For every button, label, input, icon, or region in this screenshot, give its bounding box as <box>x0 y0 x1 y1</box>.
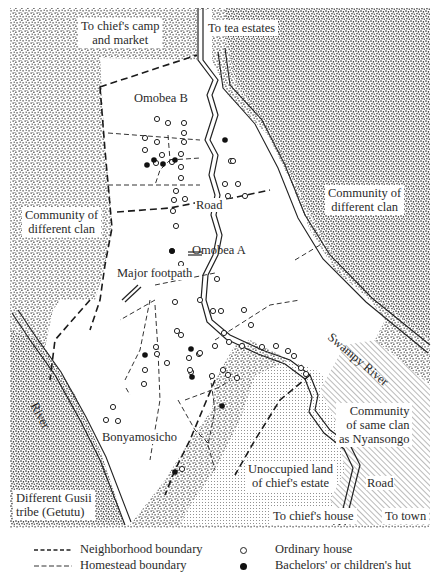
legend-bachelor-label: Bachelors' or children's hut <box>275 558 411 572</box>
label-major-footpath: Major footpath <box>116 266 193 280</box>
ordinary-house-icon <box>226 339 231 344</box>
ordinary-house-icon <box>273 343 278 348</box>
ordinary-house-icon <box>221 330 226 335</box>
ordinary-house-icon <box>178 175 183 180</box>
ordinary-house-icon <box>179 466 184 471</box>
bachelor-hut-icon <box>151 157 157 163</box>
ordinary-house-icon <box>153 344 158 349</box>
label-omobea-b: Omobea B <box>134 91 188 105</box>
ordinary-house-icon <box>171 197 176 202</box>
ordinary-house-icon <box>181 120 186 125</box>
ordinary-house-icon <box>210 308 215 313</box>
ordinary-house-icon <box>172 299 177 304</box>
bachelor-hut-icon <box>222 137 228 143</box>
bachelor-hut-icon <box>219 403 225 409</box>
ordinary-house-icon <box>230 158 235 163</box>
ordinary-house-icon <box>222 181 227 186</box>
legend-homestead: Homestead boundary <box>34 558 187 573</box>
legend-neighborhood-label: Neighborhood boundary <box>80 542 203 556</box>
ordinary-house-icon <box>181 139 186 144</box>
legend: Neighborhood boundary Homestead boundary… <box>0 542 436 581</box>
ordinary-house-icon <box>259 344 264 349</box>
ordinary-house-icon <box>142 367 147 372</box>
ordinary-house-icon <box>154 351 159 356</box>
ordinary-house-icon <box>110 404 115 409</box>
nyansongo-map <box>0 0 436 540</box>
ordinary-house-icon <box>212 343 217 348</box>
ordinary-house-icon <box>178 164 183 169</box>
label-to-chiefs-house: To chief's house <box>270 508 357 524</box>
ordinary-house-icon <box>241 307 246 312</box>
ordinary-house-icon <box>159 152 164 157</box>
label-unoccupied: Unoccupied land of chief's estate <box>245 461 336 491</box>
label-community-left: Community of different clan <box>22 207 101 237</box>
ordinary-house-icon <box>170 208 175 213</box>
ordinary-house-icon <box>242 193 247 198</box>
label-bonyamosicho: Bonyamosicho <box>101 430 178 444</box>
legend-bachelor: Bachelors' or children's hut <box>240 558 411 573</box>
label-gusii-tribe: Different Gusii tribe (Getutu) <box>13 490 95 520</box>
ordinary-house-icon <box>178 151 183 156</box>
ordinary-house-icon <box>165 120 170 125</box>
ordinary-house-icon <box>173 223 178 228</box>
legend-ordinary-label: Ordinary house <box>275 542 352 556</box>
bachelor-hut-icon <box>144 162 150 168</box>
label-road-upper: Road <box>195 198 223 212</box>
ordinary-house-icon <box>214 276 219 281</box>
ordinary-house-icon <box>248 322 253 327</box>
label-to-town: To town <box>382 508 429 524</box>
label-omobea-a: Omobea A <box>192 243 246 257</box>
label-to-tea-estates: To tea estates <box>205 20 278 36</box>
ordinary-house-icon <box>154 139 159 144</box>
ordinary-house-icon <box>235 181 240 186</box>
light-dash-icon <box>34 564 72 568</box>
ordinary-house-icon <box>225 193 230 198</box>
bachelor-hut-icon <box>160 161 166 167</box>
ordinary-house-icon <box>239 343 244 348</box>
ordinary-house-icon <box>197 350 202 355</box>
ordinary-house-icon <box>178 332 183 337</box>
ordinary-house-icon <box>303 371 308 376</box>
ordinary-house-icon <box>115 418 120 423</box>
ordinary-house-icon <box>291 353 296 358</box>
ordinary-house-icon <box>142 147 147 152</box>
legend-neighborhood: Neighborhood boundary <box>34 542 203 557</box>
ordinary-house-icon <box>197 297 202 302</box>
ordinary-house-icon <box>182 196 187 201</box>
legend-homestead-label: Homestead boundary <box>80 558 187 572</box>
bachelor-hut-icon <box>172 157 178 163</box>
ordinary-house-icon <box>103 417 108 422</box>
label-same-clan: Community of same clan as Nyansongo <box>336 403 412 447</box>
ordinary-house-icon <box>186 355 191 360</box>
label-community-right: Community of different clan <box>325 185 404 215</box>
heavy-dash-icon <box>34 548 72 552</box>
ordinary-house-icon <box>141 381 146 386</box>
bachelor-hut-icon <box>188 346 194 352</box>
ordinary-house-icon <box>298 365 303 370</box>
bachelor-hut-icon <box>189 374 195 380</box>
ordinary-house-icon <box>164 360 169 365</box>
ordinary-house-icon <box>218 308 223 313</box>
open-circle-icon <box>240 547 247 554</box>
ordinary-house-icon <box>209 373 214 378</box>
ordinary-house-icon <box>225 372 230 377</box>
label-to-chiefs-camp: To chief's camp and market <box>78 18 162 48</box>
bachelor-hut-icon <box>142 352 148 358</box>
bachelor-hut-icon <box>169 248 175 254</box>
ordinary-house-icon <box>181 130 186 135</box>
ordinary-house-icon <box>187 367 192 372</box>
ordinary-house-icon <box>285 348 290 353</box>
filled-circle-icon <box>240 563 247 570</box>
legend-ordinary: Ordinary house <box>240 542 352 557</box>
ordinary-house-icon <box>173 188 178 193</box>
ordinary-house-icon <box>234 375 239 380</box>
label-road-lower: Road <box>366 476 394 490</box>
ordinary-house-icon <box>220 367 225 372</box>
ordinary-house-icon <box>142 135 147 140</box>
bachelor-hut-icon <box>172 469 178 475</box>
ordinary-house-icon <box>154 116 159 121</box>
